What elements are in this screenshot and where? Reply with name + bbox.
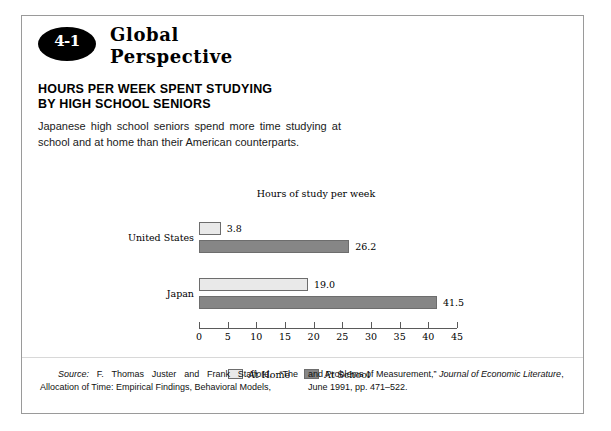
x-axis-tick-label-25: 25 xyxy=(330,331,354,342)
x-axis-tick-15 xyxy=(285,322,286,328)
x-axis-tick-20 xyxy=(314,322,315,328)
x-axis-tick-label-15: 15 xyxy=(273,331,297,342)
x-axis-tick-25 xyxy=(342,322,343,328)
chart-plot-area: United States Japan 3.826.219.041.5 0510… xyxy=(22,204,583,353)
category-label-united-states: United States xyxy=(74,232,194,243)
figure-title: HOURS PER WEEK SPENT STUDYING BY HIGH SC… xyxy=(38,82,438,112)
source-divider xyxy=(22,357,583,358)
x-axis-tick-label-0: 0 xyxy=(187,331,211,342)
source-column-left: Source: F. Thomas Juster and Frank Staff… xyxy=(40,368,298,393)
source-journal-name: Journal of Economic Literature xyxy=(439,369,561,379)
bar-value-united-states-at-home: 3.8 xyxy=(227,223,242,234)
source-label: Source: xyxy=(58,369,89,379)
x-axis-tick-label-20: 20 xyxy=(302,331,326,342)
figure-frame: 4-1 Global Perspective HOURS PER WEEK SP… xyxy=(21,15,584,414)
x-axis-tick-label-30: 30 xyxy=(359,331,383,342)
x-axis-tick-0 xyxy=(199,322,200,328)
x-axis-tick-label-35: 35 xyxy=(388,331,412,342)
x-axis-tick-5 xyxy=(228,322,229,328)
source-column-right: and Problems of Measurement,” Journal of… xyxy=(308,368,568,393)
figure-header: 4-1 Global Perspective xyxy=(38,24,398,82)
x-axis-tick-label-10: 10 xyxy=(244,331,268,342)
figure-description: Japanese high school seniors spend more … xyxy=(38,119,341,150)
figure-title-line-2: BY HIGH SCHOOL SENIORS xyxy=(38,97,438,112)
x-axis-tick-30 xyxy=(371,322,372,328)
bar-united-states-at-school xyxy=(199,240,349,253)
series-heading-line-1: Global xyxy=(110,24,179,45)
bar-value-japan-at-home: 19.0 xyxy=(314,279,335,290)
bar-value-japan-at-school: 41.5 xyxy=(443,297,464,308)
x-axis-tick-35 xyxy=(400,322,401,328)
x-axis-line xyxy=(199,328,457,329)
x-axis-tick-label-45: 45 xyxy=(445,331,469,342)
bar-value-united-states-at-school: 26.2 xyxy=(355,241,376,252)
figure-number-label: 4-1 xyxy=(38,24,96,58)
x-axis-tick-40 xyxy=(428,322,429,328)
x-axis-tick-10 xyxy=(256,322,257,328)
bar-united-states-at-home xyxy=(199,222,221,235)
chart-title: Hours of study per week xyxy=(226,188,406,199)
category-label-japan: Japan xyxy=(74,288,194,299)
source-right-text-1: and Problems of Measurement,” xyxy=(308,369,439,379)
bar-chart: Hours of study per week United States Ja… xyxy=(22,188,583,353)
x-axis-tick-label-40: 40 xyxy=(416,331,440,342)
x-axis-tick-45 xyxy=(457,322,458,328)
bar-japan-at-school xyxy=(199,296,437,309)
figure-title-line-1: HOURS PER WEEK SPENT STUDYING xyxy=(38,82,438,97)
x-axis-tick-label-5: 5 xyxy=(216,331,240,342)
bar-japan-at-home xyxy=(199,278,308,291)
series-heading-line-2: Perspective xyxy=(110,46,233,67)
